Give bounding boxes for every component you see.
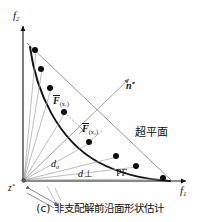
- data-point: [38, 66, 44, 72]
- figure-caption: (c) 非支配解前沿面形状估计: [0, 203, 200, 215]
- data-point: [32, 47, 38, 53]
- hyperplane-label: 超平面: [135, 127, 168, 138]
- axis-x-label: f1: [180, 185, 186, 196]
- distance-do-label: do: [51, 159, 59, 169]
- bracket-guides: [47, 186, 61, 203]
- f-bar-x1-label: F(x₁): [53, 95, 69, 106]
- distance-dperp-label: d⊥: [78, 169, 93, 179]
- hyperplane-line: [27, 43, 172, 181]
- axis-y-label: f2: [13, 10, 19, 21]
- f-bar-x2-label: F(x₂): [82, 123, 98, 134]
- data-point: [86, 139, 92, 145]
- normal-vector-label: n*: [126, 81, 135, 91]
- figure-drawing: [0, 0, 200, 222]
- data-point: [61, 109, 67, 115]
- origin-label: z*: [8, 184, 15, 194]
- figure-container: f2 f1 z* n* F(x₁) F(x₂) 超平面 PF do d⊥ (c)…: [0, 0, 200, 222]
- pareto-front-label: PF: [116, 168, 127, 178]
- data-point: [133, 163, 139, 169]
- data-point: [160, 175, 166, 181]
- data-point: [47, 85, 53, 91]
- normal-vector-ray: [24, 79, 129, 180]
- data-point: [113, 153, 119, 159]
